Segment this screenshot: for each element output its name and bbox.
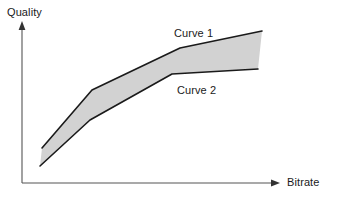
y-axis-label: Quality [7, 6, 42, 18]
quality-bitrate-figure: Quality Bitrate Curve 1 Curve 2 [0, 0, 339, 200]
x-axis-label: Bitrate [287, 176, 320, 188]
chart-canvas [0, 0, 339, 200]
arrow-up-icon [19, 21, 26, 30]
curve-1-label: Curve 1 [174, 27, 213, 39]
shaded-region-between-curves [40, 31, 262, 166]
arrow-right-icon [271, 180, 280, 187]
curve-2-label: Curve 2 [177, 84, 216, 96]
